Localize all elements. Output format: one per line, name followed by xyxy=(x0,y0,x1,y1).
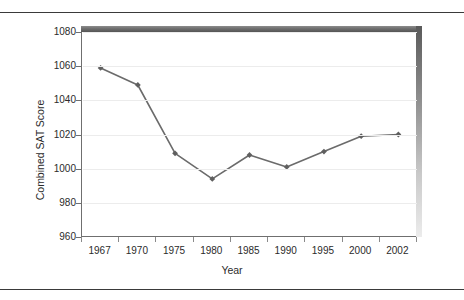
plot-frame xyxy=(81,26,422,237)
x-tick-mark xyxy=(230,237,231,242)
plot-area xyxy=(81,32,416,237)
x-axis-title: Year xyxy=(0,264,464,276)
x-tick-mark xyxy=(193,237,194,242)
data-point-marker xyxy=(321,149,327,155)
x-axis-tick-marks xyxy=(0,237,464,243)
gridline xyxy=(83,169,417,170)
data-point-marker xyxy=(135,82,141,88)
x-tick-label: 2002 xyxy=(372,245,422,256)
gridline xyxy=(83,66,417,67)
x-tick-mark xyxy=(379,237,380,242)
x-tick-mark xyxy=(342,237,343,242)
series-markers xyxy=(98,65,402,182)
plot-inner xyxy=(82,32,417,237)
x-tick-mark xyxy=(81,237,82,242)
gridline xyxy=(83,203,417,204)
x-axis-tick-labels: 196719701975198019851990199520002002 xyxy=(0,245,464,259)
x-tick-mark xyxy=(118,237,119,242)
chart-figure: Combined SAT Score 960980100010201040106… xyxy=(0,0,464,300)
x-tick-mark xyxy=(267,237,268,242)
x-tick-mark xyxy=(304,237,305,242)
x-tick-mark xyxy=(155,237,156,242)
gridline xyxy=(83,32,417,33)
gridline xyxy=(83,100,417,101)
x-tick-mark xyxy=(416,237,417,242)
gridline xyxy=(83,135,417,136)
bottom-divider-rule xyxy=(0,289,464,290)
top-divider-rule xyxy=(0,12,464,13)
series-polyline xyxy=(101,68,399,179)
